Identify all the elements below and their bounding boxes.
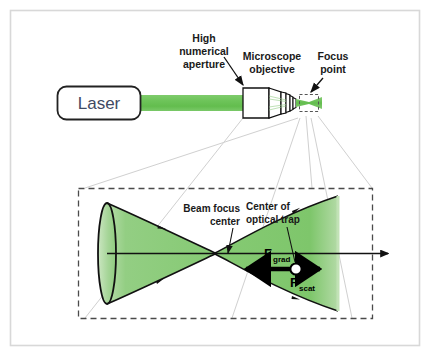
cot-label-line1: Center of: [246, 201, 291, 212]
objective-label-line1: Microscope: [243, 50, 302, 62]
f-scat-symbol: F: [290, 275, 298, 290]
f-grad-subscript: grad: [273, 255, 290, 264]
bfc-label-line1: Beam focus: [183, 203, 240, 214]
focus-label-line2: point: [320, 63, 346, 75]
laser-label: Laser: [78, 94, 121, 113]
objective-label-line2: objective: [249, 63, 295, 75]
figure-canvas: Laser High num: [0, 0, 431, 357]
trapped-bead: [290, 263, 301, 274]
na-label-line1: High: [192, 32, 215, 44]
optical-trap-figure: Laser High num: [0, 0, 431, 357]
laser-source: Laser: [58, 87, 141, 120]
collimated-laser-beam: [132, 95, 244, 111]
focus-label-line1: Focus: [318, 50, 349, 62]
label-microscope-objective: Microscope objective: [243, 50, 302, 75]
cot-label-line2: optical trap: [246, 214, 300, 225]
na-label-line2: numerical: [179, 45, 229, 57]
f-scat-subscript: scat: [299, 284, 315, 293]
bfc-label-line2: center: [210, 216, 240, 227]
na-label-line3: aperture: [183, 58, 225, 70]
f-grad-symbol: F: [264, 246, 272, 261]
